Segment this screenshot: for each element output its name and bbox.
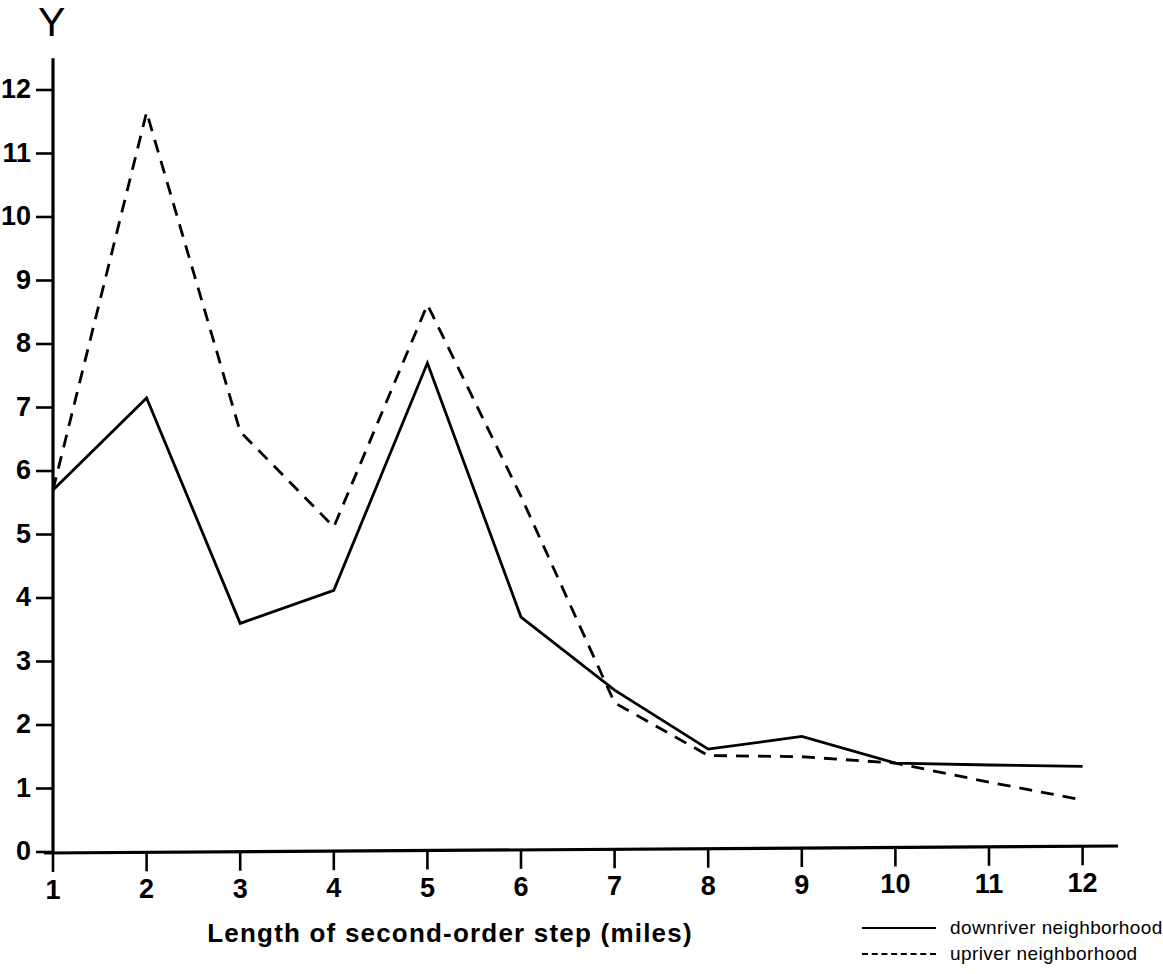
legend-item-downriver: downriver neighborhood <box>862 915 1140 941</box>
legend-line-solid-icon <box>862 922 936 934</box>
x-tick-label: 12 <box>1063 870 1103 897</box>
legend-label-upriver: upriver neighborhood <box>950 943 1138 965</box>
x-tick-label: 5 <box>407 875 447 902</box>
y-tick-label: 2 <box>0 711 31 738</box>
x-tick-label: 3 <box>220 876 260 903</box>
y-tick-label: 5 <box>0 521 31 548</box>
y-tick-label: 9 <box>0 267 31 294</box>
y-tick-label: 10 <box>0 203 31 230</box>
series-line-upriver <box>53 112 1083 800</box>
x-axis-title: Length of second-order step (miles) <box>0 918 900 949</box>
x-tick-label: 10 <box>875 871 915 898</box>
y-tick-label: 4 <box>0 584 31 611</box>
y-tick-label: 11 <box>0 140 31 167</box>
x-tick-label: 8 <box>688 873 728 900</box>
y-tick-label: 7 <box>0 394 31 421</box>
x-tick-label: 2 <box>127 876 167 903</box>
y-axis-title: Y <box>38 2 65 43</box>
series-line-downriver <box>53 363 1083 766</box>
x-axis-line <box>44 846 1118 853</box>
y-tick-label: 12 <box>0 76 31 103</box>
legend-label-downriver: downriver neighborhood <box>950 917 1163 939</box>
y-tick-label: 6 <box>0 457 31 484</box>
x-tick-label: 1 <box>33 877 73 904</box>
series-group <box>53 112 1083 800</box>
chart-legend: downriver neighborhood upriver neighborh… <box>862 915 1140 967</box>
y-tick-label: 0 <box>0 838 31 865</box>
y-tick-label: 1 <box>0 775 31 802</box>
x-tick-label: 9 <box>782 872 822 899</box>
legend-item-upriver: upriver neighborhood <box>862 941 1140 967</box>
legend-line-dashed-icon <box>862 948 936 960</box>
x-tick-label: 7 <box>595 873 635 900</box>
y-tick-label: 3 <box>0 648 31 675</box>
y-tick-label: 8 <box>0 330 31 357</box>
axes-group <box>36 58 1118 872</box>
x-tick-label: 6 <box>501 874 541 901</box>
x-tick-label: 11 <box>969 871 1009 898</box>
x-tick-label: 4 <box>314 875 354 902</box>
